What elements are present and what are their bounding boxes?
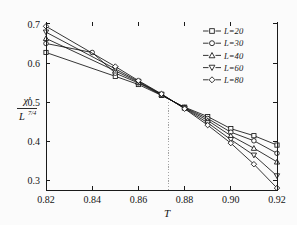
legend-marker-triangle-down [209,65,215,70]
legend-label: L=20 [223,26,244,36]
series-l-30 [44,41,280,155]
legend-marker-circle [210,41,215,46]
legend-label: L=60 [223,63,244,73]
x-axis-title: T [164,207,171,219]
legend-item-l-30[interactable]: L=30 [203,38,244,48]
legend-label: L=80 [223,75,244,85]
data-point-square [252,134,256,138]
y-tick-label: 0.6 [28,58,41,69]
chart-svg: 0.820.840.860.880.900.92 0.30.40.50.60.7… [0,0,297,225]
chart-figure: 0.820.840.860.880.900.92 0.30.40.50.60.7… [0,0,297,225]
y-tick-label: 0.3 [28,175,41,186]
series-l-40 [43,36,279,164]
series-l-60 [43,30,279,179]
x-tick-label: 0.92 [268,194,286,205]
data-point-triangle-up [251,146,256,151]
x-tick-label: 0.88 [176,194,194,205]
y-tick-label: 0.4 [28,136,41,147]
legend-label: L=40 [223,51,244,61]
data-point-circle [252,139,257,144]
x-tick-label: 0.82 [37,194,55,205]
y-axis-denominator: L [18,111,25,122]
x-tick-label: 0.90 [222,194,240,205]
legend-marker-diamond [209,77,215,83]
x-tick-label: 0.86 [130,194,148,205]
legend-item-l-20[interactable]: L=20 [203,26,244,36]
legend-item-l-60[interactable]: L=60 [203,63,244,73]
legend-marker-triangle-up [209,53,215,58]
y-tick-label: 0.7 [28,19,41,30]
x-tick-label: 0.84 [83,194,101,205]
series-l-80 [43,24,279,191]
legend-group: L=20L=30L=40L=60L=80 [203,26,244,85]
y-axis-numerator: χ' [23,95,32,106]
legend-item-l-80[interactable]: L=80 [203,75,244,85]
legend-item-l-40[interactable]: L=40 [203,51,244,61]
series-l-20 [44,50,279,147]
legend-marker-square [210,29,215,34]
series-group [43,24,279,191]
y-axis-denominator-exponent: 7/4 [28,109,37,116]
legend-label: L=30 [223,38,244,48]
